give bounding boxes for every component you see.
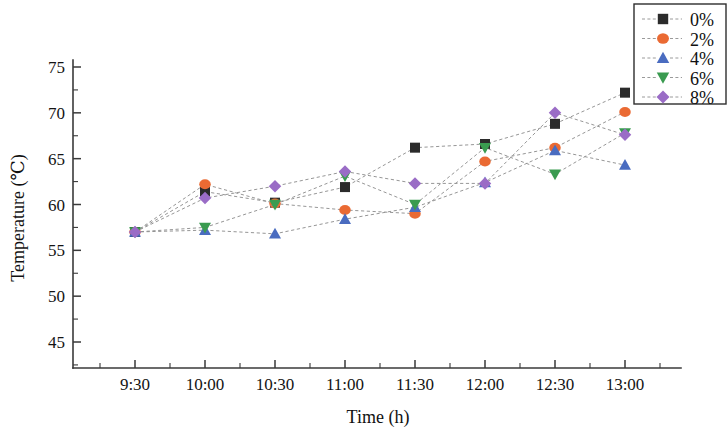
marker-square [658, 14, 668, 24]
marker-square [550, 119, 560, 129]
x-tick-label: 10:00 [186, 375, 225, 394]
x-tick-label: 12:30 [536, 375, 575, 394]
x-tick-label: 13:00 [606, 375, 645, 394]
marker-triangle-down [549, 170, 561, 181]
marker-diamond [339, 165, 352, 178]
legend-label-8pct: 8% [690, 88, 714, 108]
marker-diamond [269, 180, 282, 193]
legend-group: 0%2%4%6%8% [634, 4, 726, 108]
y-tick-label: 60 [48, 196, 65, 215]
legend-label-6pct: 6% [690, 69, 714, 89]
y-tick-label: 75 [48, 58, 65, 77]
y-tick-label: 45 [48, 333, 65, 352]
marker-circle [657, 33, 669, 43]
legend-label-0pct: 0% [690, 10, 714, 30]
marker-square [410, 143, 420, 153]
chart-canvas: 455055606570759:3010:0010:3011:0011:3012… [0, 0, 728, 431]
marker-circle [199, 179, 211, 189]
x-axis-title: Time (h) [347, 407, 410, 428]
x-tick-label: 11:00 [326, 375, 364, 394]
y-tick-label: 55 [48, 241, 65, 260]
y-tick-label: 70 [48, 104, 65, 123]
x-tick-label: 11:30 [396, 375, 434, 394]
x-tick-label: 10:30 [256, 375, 295, 394]
temperature-time-chart: 455055606570759:3010:0010:3011:0011:3012… [0, 0, 728, 431]
axes-group: 455055606570759:3010:0010:3011:0011:3012… [48, 58, 681, 394]
x-tick-label: 9:30 [120, 375, 150, 394]
series-group [129, 88, 632, 239]
y-tick-label: 50 [48, 287, 65, 306]
legend-label-4pct: 4% [690, 49, 714, 69]
marker-square [340, 182, 350, 192]
marker-circle [479, 156, 491, 166]
y-tick-label: 65 [48, 150, 65, 169]
marker-diamond [409, 177, 422, 190]
y-axis-title: Temperature (℃) [8, 154, 29, 281]
marker-square [620, 88, 630, 98]
legend-label-2pct: 2% [690, 30, 714, 50]
x-tick-label: 12:00 [466, 375, 505, 394]
marker-circle [619, 107, 631, 117]
